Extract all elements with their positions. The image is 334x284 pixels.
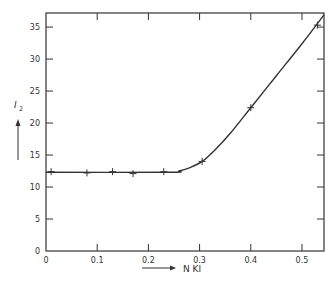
x-tick-label: 0.2 <box>142 256 155 265</box>
y-tick-label: 30 <box>30 55 40 64</box>
plus-marker-icon <box>160 168 167 175</box>
y-tick-label: 20 <box>30 119 40 128</box>
plus-marker-icon <box>109 168 116 175</box>
up-arrow-icon <box>16 119 21 126</box>
x-axis-label: N KI <box>142 264 201 274</box>
x-tick-label: 0.5 <box>296 256 309 265</box>
chart-container: 00.10.20.30.40.5 05101520253035 N KI I 2 <box>0 0 334 284</box>
plus-marker-icon <box>48 168 55 175</box>
x-axis-title: N KI <box>183 264 201 274</box>
y-axis-title: I <box>14 100 17 110</box>
x-axis-ticks: 00.10.20.30.40.5 <box>43 13 308 265</box>
y-axis-title-subscript: 2 <box>19 105 23 113</box>
line-chart: 00.10.20.30.40.5 05101520253035 N KI I 2 <box>0 0 334 284</box>
data-markers <box>48 22 321 177</box>
y-tick-label: 10 <box>30 183 40 192</box>
y-tick-label: 35 <box>30 23 40 32</box>
x-tick-label: 0 <box>43 256 48 265</box>
data-curve <box>46 15 324 172</box>
y-tick-label: 5 <box>35 215 40 224</box>
y-tick-label: 25 <box>30 87 40 96</box>
y-axis-label: I 2 <box>14 100 23 160</box>
plus-marker-icon <box>83 169 90 176</box>
plot-frame <box>46 13 324 251</box>
x-tick-label: 0.4 <box>244 256 257 265</box>
y-tick-label: 15 <box>30 151 40 160</box>
y-tick-label: 0 <box>35 247 40 256</box>
plus-marker-icon <box>130 170 137 177</box>
y-axis-ticks: 05101520253035 <box>30 23 324 256</box>
x-tick-label: 0.1 <box>91 256 104 265</box>
